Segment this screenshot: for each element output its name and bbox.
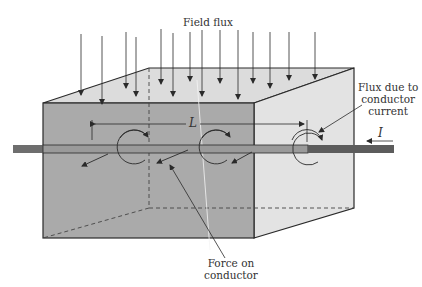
field-flux-label: Field flux <box>183 16 233 28</box>
box-front-face <box>43 103 254 238</box>
flux-conductor-label-line3: current <box>358 105 418 117</box>
flux-conductor-label: Flux due to conductor current <box>358 81 418 117</box>
current-label: I <box>378 127 383 139</box>
length-label: L <box>189 117 197 129</box>
conductor-left-outside <box>13 145 43 153</box>
flux-conductor-label-line2: conductor <box>358 93 418 105</box>
force-label-line1: Force on <box>204 257 258 269</box>
force-label: Force on conductor <box>204 257 258 281</box>
conductor-right-outside <box>308 145 394 153</box>
conductor-inside <box>43 145 308 153</box>
force-label-line2: conductor <box>204 269 258 281</box>
magnetic-field-box-diagram <box>0 0 422 287</box>
flux-conductor-label-line1: Flux due to <box>358 81 418 93</box>
